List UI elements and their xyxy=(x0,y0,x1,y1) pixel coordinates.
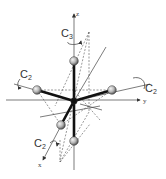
atom-equatorial-front xyxy=(57,121,66,130)
x-axis-label: x xyxy=(38,161,42,169)
atom-axial-top xyxy=(70,57,79,66)
c2-left-label: C2 xyxy=(20,68,32,81)
bond-equatorial-left xyxy=(37,90,74,101)
z-axis-label: z xyxy=(76,10,79,18)
c2-front-label: C2 xyxy=(34,137,46,150)
y-axis-label: y xyxy=(143,97,147,105)
c2-left-rotation-arrow xyxy=(18,79,21,88)
atom-equatorial-left xyxy=(33,86,42,95)
symmetry-diagram: z y x C3 C2 C2 C2 xyxy=(0,0,166,179)
coordinate-axes xyxy=(6,14,150,170)
central-atom xyxy=(71,98,77,104)
c3-rotation-arrow xyxy=(68,41,81,45)
atom-axial-bottom xyxy=(70,137,79,146)
atom-equatorial-right xyxy=(108,86,117,95)
c3-label: C3 xyxy=(61,27,73,40)
c2-right-label: C2 xyxy=(145,82,157,95)
